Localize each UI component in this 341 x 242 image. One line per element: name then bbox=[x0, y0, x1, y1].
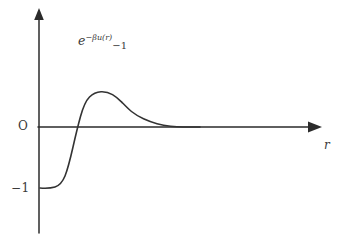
y-axis-arrowhead-icon bbox=[34, 8, 44, 20]
x-axis-variable-label: r bbox=[324, 138, 330, 152]
x-axis-arrowhead-icon bbox=[308, 122, 322, 133]
y-axis-minus-one-label: −1 bbox=[11, 181, 30, 195]
plot-canvas bbox=[0, 0, 341, 242]
y-axis-zero-label: O bbox=[18, 119, 28, 133]
annotation-exponent: −βu(r) bbox=[86, 33, 113, 42]
curve-equation-annotation: e−βu(r)−1 bbox=[78, 33, 127, 51]
mayer-f-function-curve bbox=[40, 92, 200, 188]
hand-drawn-plot-figure: O −1 r e−βu(r)−1 bbox=[0, 0, 341, 242]
annotation-trailing-term: −1 bbox=[112, 40, 127, 51]
annotation-base: e bbox=[78, 33, 86, 48]
